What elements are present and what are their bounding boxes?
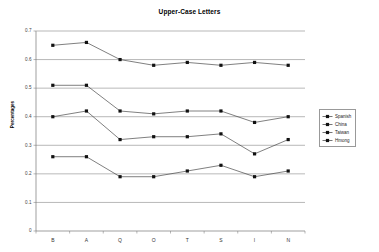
data-point-marker — [85, 155, 88, 158]
data-point-marker — [253, 61, 256, 64]
y-axis-tick-labels: 00.10.20.30.40.50.60.7 — [25, 28, 32, 233]
data-point-marker — [253, 152, 256, 155]
series-line-china — [53, 111, 288, 154]
x-tick-label: Q — [118, 237, 122, 243]
x-tick-label: A — [85, 237, 89, 243]
data-point-marker — [118, 58, 121, 61]
x-tick-label: N — [286, 237, 290, 243]
data-point-marker — [287, 138, 290, 141]
data-point-marker — [118, 175, 121, 178]
legend-item-label: China — [335, 121, 347, 128]
x-tick-label: I — [254, 237, 255, 243]
data-point-marker — [186, 61, 189, 64]
data-point-marker — [219, 132, 222, 135]
data-point-marker — [219, 109, 222, 112]
legend-symbol-icon — [322, 113, 333, 120]
data-point-marker — [85, 109, 88, 112]
y-tick-label: 0.7 — [25, 28, 32, 33]
x-tick-label: T — [186, 237, 189, 243]
data-point-marker — [287, 115, 290, 118]
x-tick-label: B — [51, 237, 55, 243]
y-tick-label: 0.6 — [25, 57, 32, 62]
data-point-marker — [253, 121, 256, 124]
y-tick-label: 0.3 — [25, 143, 32, 148]
chart-container: Upper-Case Letters Percentages 00.10.20.… — [0, 0, 379, 252]
x-axis-tick-labels: BAQOTSIN — [51, 237, 290, 243]
y-tick-label: 0 — [29, 228, 32, 233]
legend-item-label: Spanish — [335, 113, 351, 120]
data-series-group — [51, 41, 290, 178]
data-point-marker — [219, 64, 222, 67]
y-tick-label: 0.1 — [25, 200, 32, 205]
data-point-marker — [186, 109, 189, 112]
data-point-marker — [51, 115, 54, 118]
data-point-marker — [219, 164, 222, 167]
data-point-marker — [118, 109, 121, 112]
legend-symbol-icon — [322, 137, 333, 144]
y-tick-label: 0.4 — [25, 114, 32, 119]
gridlines-group — [34, 31, 306, 231]
y-tick-label: 0.5 — [25, 85, 32, 90]
data-point-marker — [152, 175, 155, 178]
legend-item-hmong: Hmong — [322, 136, 352, 144]
data-point-marker — [152, 112, 155, 115]
data-point-marker — [85, 84, 88, 87]
data-point-marker — [51, 155, 54, 158]
chart-legend: SpanishChinaTaiwanHmong — [319, 109, 356, 147]
legend-item-label: Hmong — [335, 137, 350, 144]
data-point-marker — [118, 138, 121, 141]
data-point-marker — [51, 84, 54, 87]
y-tick-label: 0.2 — [25, 171, 32, 176]
axis-lines — [36, 31, 305, 231]
data-point-marker — [152, 64, 155, 67]
legend-symbol-icon — [322, 121, 333, 128]
legend-item-taiwan: Taiwan — [322, 128, 352, 136]
legend-symbol-icon — [322, 129, 333, 136]
data-point-marker — [287, 64, 290, 67]
data-point-marker — [287, 169, 290, 172]
series-line-hmong — [53, 42, 288, 65]
data-point-marker — [51, 44, 54, 47]
data-point-marker — [152, 135, 155, 138]
data-point-marker — [253, 175, 256, 178]
legend-item-china: China — [322, 120, 352, 128]
x-axis-tick-marks — [36, 231, 305, 234]
data-point-marker — [186, 169, 189, 172]
data-point-marker — [85, 41, 88, 44]
x-tick-label: O — [152, 237, 156, 243]
legend-item-label: Taiwan — [335, 129, 349, 136]
x-tick-label: S — [219, 237, 223, 243]
legend-item-spanish: Spanish — [322, 112, 352, 120]
data-point-marker — [186, 135, 189, 138]
